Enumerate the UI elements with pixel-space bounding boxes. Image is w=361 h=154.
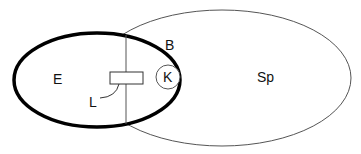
label-sp: Sp: [257, 69, 274, 85]
label-k: K: [163, 69, 173, 85]
label-l: L: [89, 94, 97, 110]
label-b: B: [165, 37, 174, 53]
label-e: E: [53, 71, 62, 87]
l-rectangle: [110, 72, 143, 84]
e-ellipse-bold: [14, 33, 180, 127]
diagram-canvas: E B K L Sp: [0, 0, 361, 154]
